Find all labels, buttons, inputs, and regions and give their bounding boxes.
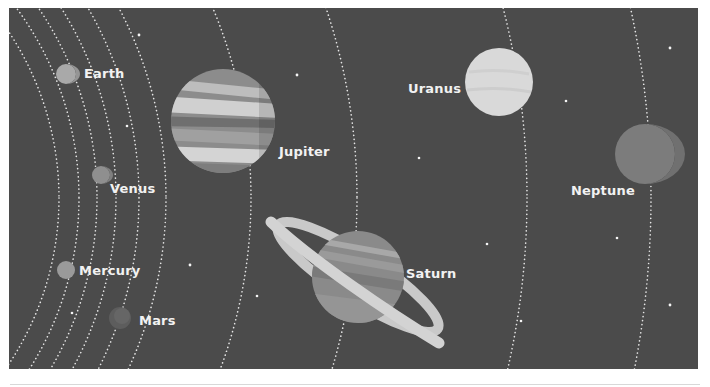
label-jupiter: Jupiter <box>279 144 330 159</box>
orbit-2 <box>9 8 79 369</box>
orbit-8 <box>9 8 357 369</box>
divider <box>10 384 700 385</box>
orbit-10 <box>9 8 651 369</box>
planet-jupiter <box>159 68 292 178</box>
label-mars: Mars <box>139 313 176 328</box>
label-neptune: Neptune <box>571 183 635 198</box>
label-venus: Venus <box>110 181 155 196</box>
label-uranus: Uranus <box>408 81 461 96</box>
planet-uranus <box>465 48 533 116</box>
solar-system-illustration: Earth Venus Mercury Mars Jupiter Saturn … <box>9 8 698 369</box>
orbit-9 <box>9 8 527 369</box>
orbit-3 <box>9 8 97 369</box>
orbit-1 <box>9 8 59 369</box>
orbit-paths <box>9 8 651 369</box>
label-saturn: Saturn <box>406 266 456 281</box>
planet-mercury <box>57 261 75 279</box>
planet-mars <box>109 307 131 329</box>
orbit-4 <box>9 8 116 369</box>
planet-earth <box>56 64 80 84</box>
label-earth: Earth <box>84 66 125 81</box>
label-mercury: Mercury <box>79 263 140 278</box>
planet-neptune <box>615 124 685 184</box>
